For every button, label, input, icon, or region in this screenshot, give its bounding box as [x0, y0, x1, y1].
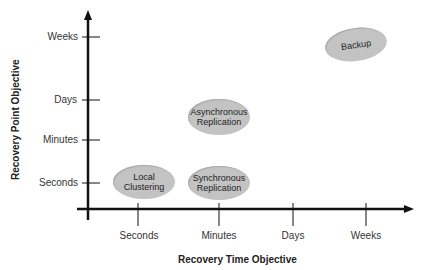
bubble-synchronous-replication: Synchronous Replication [188, 166, 250, 200]
y-axis-title: Recovery Point Objective [10, 59, 21, 180]
bubble-local-clustering: Local Clustering [113, 165, 175, 199]
y-tick-minutes: Minutes [18, 134, 78, 145]
y-tick-seconds: Seconds [18, 177, 78, 188]
y-tick-weeks: Weeks [18, 31, 78, 42]
bubble-label-line1: Asynchronous [190, 107, 247, 117]
bubble-label-line1: Backup [340, 37, 371, 51]
bubble-label-line2: Replication [190, 117, 247, 127]
x-tick-weeks: Weeks [351, 230, 381, 241]
bubble-label-line1: Synchronous [193, 173, 246, 183]
x-tick-days: Days [282, 230, 305, 241]
bubble-label-line1: Local [124, 172, 165, 182]
x-tick-seconds: Seconds [120, 230, 159, 241]
x-axis-title: Recovery Time Objective [178, 254, 297, 265]
bubble-label-line2: Replication [193, 183, 246, 193]
bubble-asynchronous-replication: Asynchronous Replication [188, 99, 250, 135]
y-tick-days: Days [17, 94, 77, 105]
bubble-label-line2: Clustering [124, 182, 165, 192]
x-tick-minutes: Minutes [201, 230, 236, 241]
